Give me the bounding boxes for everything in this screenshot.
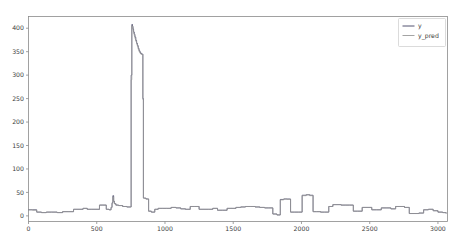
y-tick-label: 0 [20, 212, 24, 219]
y-tick-label: 100 [12, 165, 24, 172]
x-tick-label: 3000 [430, 225, 446, 232]
x-axis-ticks: 050010001500200025003000 [27, 222, 446, 233]
y-tick-label: 150 [12, 142, 24, 149]
chart-legend[interactable]: yy_pred [399, 19, 446, 47]
y-tick-label: 350 [12, 48, 24, 55]
legend-label-y_pred[interactable]: y_pred [418, 32, 439, 40]
y-tick-label: 250 [12, 95, 24, 102]
x-tick-label: 2000 [294, 225, 310, 232]
x-tick-label: 0 [27, 225, 31, 232]
plot-area: 050100150200250300350400 050010001500200… [0, 0, 454, 252]
y-tick-label: 300 [12, 71, 24, 78]
x-tick-label: 1500 [225, 225, 241, 232]
axes-frame [29, 17, 448, 222]
y-axis-ticks: 050100150200250300350400 [12, 24, 28, 219]
x-tick-label: 500 [91, 225, 103, 232]
y-tick-label: 50 [16, 189, 24, 196]
series-line-y [29, 24, 447, 214]
figure-canvas: 050100150200250300350400 050010001500200… [0, 0, 454, 252]
data-series-group [29, 24, 447, 214]
legend-label-y[interactable]: y [418, 22, 422, 30]
y-tick-label: 200 [12, 118, 24, 125]
x-tick-label: 2500 [362, 225, 378, 232]
y-tick-label: 400 [12, 24, 24, 31]
series-line-y_pred [29, 26, 447, 215]
x-tick-label: 1000 [157, 225, 173, 232]
